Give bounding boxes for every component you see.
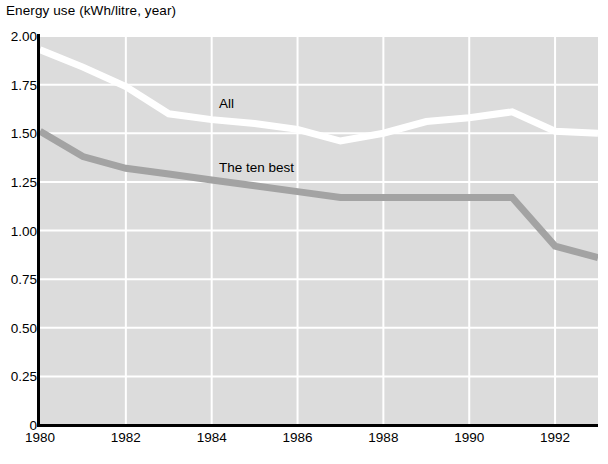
y-axis-tick-labels: 00.250.500.751.001.251.501.752.00 (0, 0, 40, 464)
series-label-ten-best: The ten best (219, 160, 294, 175)
y-axis-tick-label: 1.25 (4, 174, 40, 189)
x-axis-tick-label: 1988 (368, 430, 398, 445)
x-axis-tick-label: 1992 (540, 430, 570, 445)
y-axis-tick-label: 2.00 (4, 29, 40, 44)
x-axis-tick-label: 1980 (25, 430, 55, 445)
plot-area (40, 36, 598, 425)
series-line (40, 50, 598, 141)
y-axis-tick-label: 1.75 (4, 77, 40, 92)
y-axis-tick-label: 1.00 (4, 223, 40, 238)
series-line (40, 131, 598, 257)
grid-lines (40, 36, 598, 425)
x-axis-tick-label: 1982 (111, 430, 141, 445)
x-axis-tick-label: 1984 (197, 430, 227, 445)
x-axis-tick-label: 1990 (454, 430, 484, 445)
chart-figure: Energy use (kWh/litre, year) 00.250.500.… (0, 0, 608, 464)
series-lines (40, 50, 598, 258)
y-axis-tick-label: 1.50 (4, 126, 40, 141)
plot-canvas (40, 36, 598, 425)
x-axis-tick-label: 1986 (283, 430, 313, 445)
y-axis-tick-label: 0.75 (4, 272, 40, 287)
x-axis-line (37, 424, 598, 427)
y-axis-tick-label: 0.50 (4, 320, 40, 335)
y-axis-tick-label: 0.25 (4, 369, 40, 384)
series-label-all: All (219, 96, 234, 111)
